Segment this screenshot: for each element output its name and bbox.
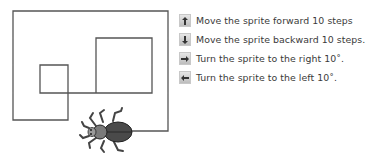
legend-item-turn-left: Turn the sprite to the left 10˚. — [179, 68, 365, 87]
legend-item-forward: Move the sprite forward 10 steps — [179, 11, 365, 30]
sprite-path-drawing — [0, 0, 180, 163]
beetle-sprite — [80, 108, 132, 152]
up-arrow-key-icon — [179, 14, 191, 27]
down-arrow-key-icon — [179, 33, 191, 46]
right-arrow-key-icon — [179, 52, 191, 65]
outer-path — [13, 11, 168, 131]
legend-label: Move the sprite forward 10 steps — [196, 15, 353, 26]
legend-item-backward: Move the sprite backward 10 steps. — [179, 30, 365, 49]
legend-label: Turn the sprite to the left 10˚. — [196, 72, 337, 83]
legend-item-turn-right: Turn the sprite to the right 10˚. — [179, 49, 365, 68]
controls-legend: Move the sprite forward 10 steps Move th… — [179, 11, 365, 87]
legend-label: Move the sprite backward 10 steps. — [196, 34, 365, 45]
left-arrow-key-icon — [179, 71, 191, 84]
legend-label: Turn the sprite to the right 10˚. — [196, 53, 344, 64]
